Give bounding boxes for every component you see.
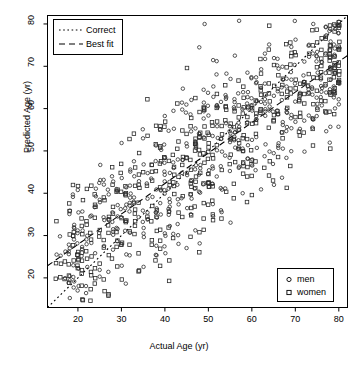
- reference-lines: [48, 16, 348, 308]
- x-tick-label: 50: [199, 314, 217, 324]
- legend-reference-lines: Correct Best fit: [53, 19, 123, 55]
- legend-label-correct: Correct: [86, 25, 116, 35]
- x-tick-label: 70: [286, 314, 304, 324]
- x-tick-label: 40: [156, 314, 174, 324]
- y-tick-label: 40: [26, 180, 36, 198]
- circle-marker-icon: [281, 272, 297, 286]
- x-tick-label: 20: [69, 314, 87, 324]
- square-marker-icon: [281, 285, 297, 299]
- legend-item-women: women: [281, 285, 326, 298]
- legend-label-best-fit: Best fit: [86, 39, 114, 49]
- legend-item-best-fit: Best fit: [56, 37, 116, 51]
- data-points-women: [54, 21, 341, 303]
- legend-label-men: men: [297, 274, 315, 284]
- dotted-line-icon: [56, 23, 86, 37]
- y-tick-label: 80: [26, 11, 36, 29]
- legend-item-correct: Correct: [56, 23, 116, 37]
- dashed-line-icon: [56, 37, 86, 51]
- legend-groups: men women: [277, 268, 334, 302]
- x-tick-label: 80: [330, 314, 348, 324]
- y-tick-label: 30: [26, 223, 36, 241]
- y-tick-label: 60: [26, 96, 36, 114]
- x-tick-label: 30: [112, 314, 130, 324]
- x-axis-label: Actual Age (yr): [0, 341, 358, 351]
- data-points-men: [55, 19, 341, 300]
- y-axis-label: Predicted Age (yr): [22, 57, 32, 177]
- legend-label-women: women: [297, 287, 326, 297]
- chart-figure: Predicted Age (yr) Actual Age (yr) 20304…: [0, 0, 358, 365]
- y-tick-label: 50: [26, 138, 36, 156]
- x-tick-label: 60: [243, 314, 261, 324]
- legend-item-men: men: [281, 272, 326, 285]
- y-tick-label: 20: [26, 265, 36, 283]
- y-tick-label: 70: [26, 53, 36, 71]
